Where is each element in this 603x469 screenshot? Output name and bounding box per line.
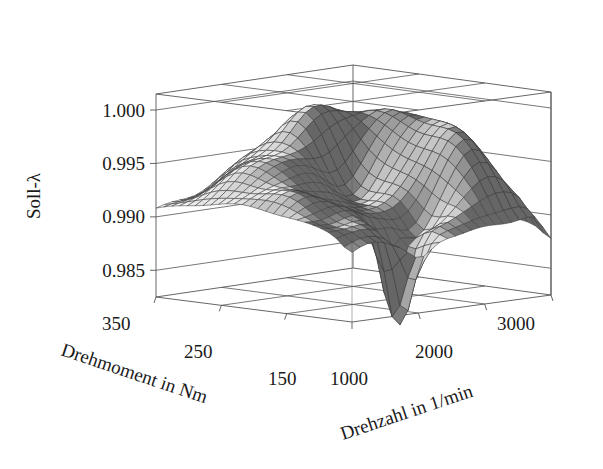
z-tick-label: 0.985 (102, 260, 145, 281)
z-tick-label: 1.000 (102, 100, 145, 121)
surface-plot-3d: 1.000 0.995 0.990 0.985 350 250 150 1000… (0, 0, 603, 469)
y-tick-label: 1000 (330, 368, 368, 389)
x-tick-label: 350 (102, 313, 131, 334)
y-axis-title: Drehzahl in 1/min (338, 380, 476, 444)
figure-root: 1.000 0.995 0.990 0.985 350 250 150 1000… (0, 0, 603, 469)
z-tick-labels: 1.000 0.995 0.990 0.985 (102, 100, 145, 281)
y-tick-labels: 1000 2000 3000 (330, 313, 535, 389)
x-tick-label: 150 (268, 368, 297, 389)
surface-mesh (156, 105, 551, 325)
z-tick-label: 0.990 (102, 206, 145, 227)
z-axis-title: Soll-λ (23, 172, 44, 219)
y-tick-label: 3000 (497, 313, 535, 334)
x-tick-label: 250 (184, 341, 213, 362)
z-tick-label: 0.995 (102, 153, 145, 174)
y-tick-label: 2000 (415, 341, 453, 362)
